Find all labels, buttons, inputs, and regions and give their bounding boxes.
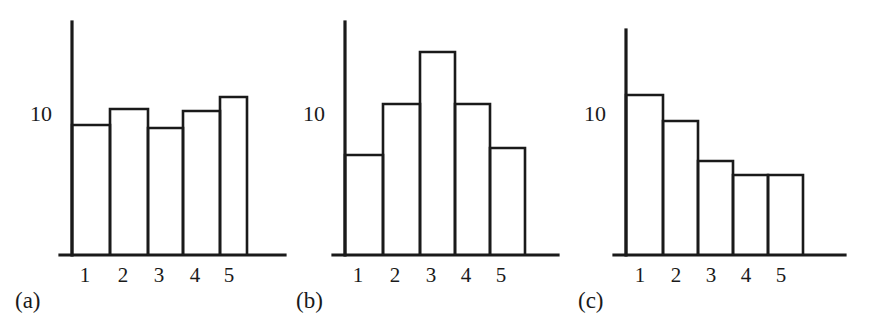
panel-c-x-tick-5: 5 (776, 263, 787, 287)
panel-b-x-tick-3: 3 (426, 263, 437, 287)
panel-a-bar-2 (110, 109, 148, 255)
panel-a-caption: (a) (15, 288, 41, 313)
panel-c-y-tick-label-10: 10 (584, 101, 606, 126)
panel-b-caption: (b) (296, 288, 323, 313)
histogram-figure: 10 1 2 3 4 5 (a) 10 1 2 3 4 5 (b) (0, 0, 881, 327)
panel-c-bar-2 (663, 121, 698, 255)
panel-b-x-tick-2: 2 (390, 263, 401, 287)
panel-c-bar-4 (733, 175, 768, 255)
panel-c-bar-5 (768, 175, 803, 255)
panel-a-x-tick-2: 2 (118, 263, 129, 287)
panel-a-y-tick-label-10: 10 (30, 101, 52, 126)
panel-b-bar-1 (345, 155, 383, 255)
panel-a: 10 1 2 3 4 5 (a) (15, 22, 285, 313)
panel-a-bar-1 (72, 125, 110, 255)
panel-a-bar-4 (183, 111, 220, 255)
panel-a-x-tick-4: 4 (190, 263, 201, 287)
panel-b-x-tick-1: 1 (353, 263, 364, 287)
panel-c-x-tick-1: 1 (635, 263, 646, 287)
panel-b-bar-3 (420, 52, 455, 255)
panel-a-x-tick-3: 3 (154, 263, 165, 287)
panel-b-bar-5 (490, 148, 525, 255)
panel-b-bar-2 (383, 104, 420, 255)
panel-b-y-tick-label-10: 10 (303, 101, 325, 126)
panel-c-x-tick-3: 3 (706, 263, 717, 287)
panel-a-x-tick-5: 5 (224, 263, 235, 287)
panel-c-x-tick-2: 2 (671, 263, 682, 287)
panel-a-bar-3 (148, 128, 183, 255)
panel-c-bar-3 (698, 161, 733, 255)
panel-c-x-tick-4: 4 (741, 263, 752, 287)
panel-b-bar-4 (455, 104, 490, 255)
figure-canvas: 10 1 2 3 4 5 (a) 10 1 2 3 4 5 (b) (0, 0, 881, 327)
panel-b-x-tick-4: 4 (461, 263, 472, 287)
panel-b-x-tick-5: 5 (496, 263, 507, 287)
panel-a-x-tick-1: 1 (80, 263, 91, 287)
panel-a-bar-5 (220, 97, 247, 255)
panel-c-bar-1 (626, 95, 663, 255)
panel-c-caption: (c) (578, 288, 604, 313)
panel-b: 10 1 2 3 4 5 (b) (296, 22, 558, 313)
panel-c: 10 1 2 3 4 5 (c) (578, 30, 845, 313)
